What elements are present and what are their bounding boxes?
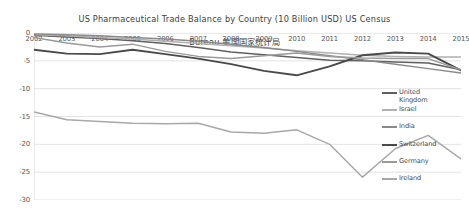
y-tick-label: -10 xyxy=(4,85,30,93)
legend-item-label: India xyxy=(399,122,415,130)
legend-item-label: Ireland xyxy=(399,174,421,182)
chart-container: US Pharmaceutical Trade Balance by Count… xyxy=(0,0,469,211)
legend-swatch-icon xyxy=(382,109,397,111)
legend-item-india[interactable]: India xyxy=(382,122,415,130)
legend-item-israel[interactable]: Israel xyxy=(382,105,416,113)
legend-swatch-icon xyxy=(382,144,397,146)
y-axis: 0-5-10-15-20-25-30 xyxy=(0,33,30,200)
legend-item-label: Israel xyxy=(399,105,416,113)
y-tick-label: -30 xyxy=(4,196,30,204)
legend-item-united-kingdom[interactable]: United Kingdom xyxy=(382,88,427,104)
legend-item-label: United Kingdom xyxy=(399,88,427,104)
y-tick-label: -15 xyxy=(4,113,30,121)
legend-item-germany[interactable]: Germany xyxy=(382,157,429,165)
legend-swatch-icon xyxy=(382,161,397,163)
chart-title-line-1: US Pharmaceutical Trade Balance by Count… xyxy=(0,14,469,26)
legend-swatch-icon xyxy=(382,126,397,128)
y-tick-label: -25 xyxy=(4,168,30,176)
y-tick-label: -5 xyxy=(4,57,30,65)
y-tick-label: -20 xyxy=(4,140,30,148)
legend-item-label: Germany xyxy=(399,157,429,165)
legend-item-switzerland[interactable]: Switzerland xyxy=(382,140,436,148)
legend-item-ireland[interactable]: Ireland xyxy=(382,174,421,182)
legend-swatch-icon xyxy=(382,92,397,94)
legend-item-label: Switzerland xyxy=(399,140,436,148)
legend-swatch-icon xyxy=(382,178,397,180)
